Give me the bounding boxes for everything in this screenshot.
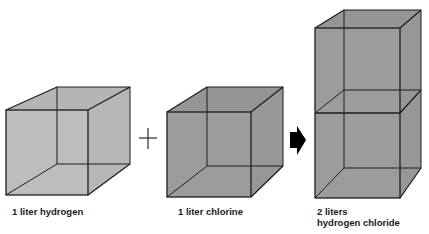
cube-side-face [400, 10, 421, 198]
cube-hydrogen-chloride [315, 10, 421, 198]
label-chlorine: 1 liter chlorine [178, 206, 243, 217]
cube-hydrogen [6, 87, 130, 195]
label-hydrogen-chloride-line2: hydrogen chloride [317, 217, 400, 228]
diagram-svg [0, 0, 429, 234]
cube-chlorine [167, 87, 283, 197]
right-arrow-icon [290, 126, 306, 155]
plus-icon [139, 128, 157, 149]
label-hydrogen: 1 liter hydrogen [12, 206, 83, 217]
label-hydrogen-chloride-line1: 2 liters [317, 206, 348, 217]
diagram-canvas: 1 liter hydrogen 1 liter chlorine 2 lite… [0, 0, 429, 234]
arrow-shape [290, 126, 306, 155]
